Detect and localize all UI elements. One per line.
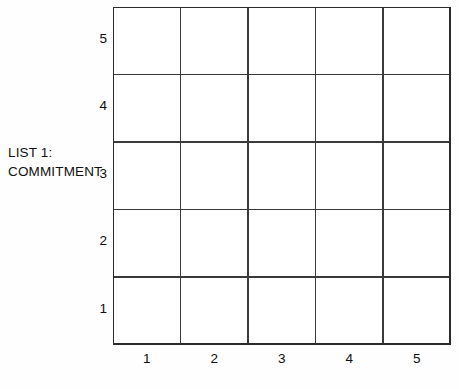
grid-cell[interactable] <box>316 7 384 75</box>
grid-cell[interactable] <box>383 142 451 210</box>
grid-cell[interactable] <box>248 277 316 345</box>
grid-cell[interactable] <box>248 210 316 278</box>
y-tick-label: 5 <box>89 31 107 46</box>
grid-cell[interactable] <box>383 7 451 75</box>
grid-cell[interactable] <box>113 277 181 345</box>
x-tick-label: 4 <box>316 351 384 366</box>
x-tick-label: 3 <box>248 351 316 366</box>
grid-cell[interactable] <box>181 210 249 278</box>
grid-cell[interactable] <box>248 142 316 210</box>
chart-canvas: LIST 1: COMMITMENT 5 4 3 2 1 1 2 3 4 5 <box>0 0 459 389</box>
response-grid <box>113 7 451 345</box>
grid-cell-layer[interactable] <box>113 7 451 345</box>
grid-cell[interactable] <box>248 7 316 75</box>
y-tick-label: 1 <box>89 301 107 316</box>
grid-cell[interactable] <box>383 75 451 143</box>
grid-cell[interactable] <box>316 210 384 278</box>
y-tick-label: 4 <box>89 98 107 113</box>
grid-cell[interactable] <box>113 142 181 210</box>
grid-cell[interactable] <box>248 75 316 143</box>
grid-cell[interactable] <box>181 7 249 75</box>
grid-cell[interactable] <box>181 277 249 345</box>
grid-cell[interactable] <box>113 7 181 75</box>
y-tick-label: 2 <box>89 233 107 248</box>
x-tick-label: 5 <box>383 351 451 366</box>
grid-cell[interactable] <box>113 75 181 143</box>
grid-cell[interactable] <box>383 277 451 345</box>
grid-cell[interactable] <box>113 210 181 278</box>
y-axis-title-line-1: LIST 1: <box>8 143 106 162</box>
grid-svg <box>113 7 451 345</box>
grid-cell[interactable] <box>383 210 451 278</box>
grid-cell[interactable] <box>181 142 249 210</box>
y-tick-label: 3 <box>89 166 107 181</box>
grid-cell[interactable] <box>316 277 384 345</box>
grid-cell[interactable] <box>316 75 384 143</box>
grid-cell[interactable] <box>181 75 249 143</box>
grid-cell[interactable] <box>316 142 384 210</box>
x-tick-label: 1 <box>113 351 181 366</box>
x-tick-label: 2 <box>181 351 249 366</box>
